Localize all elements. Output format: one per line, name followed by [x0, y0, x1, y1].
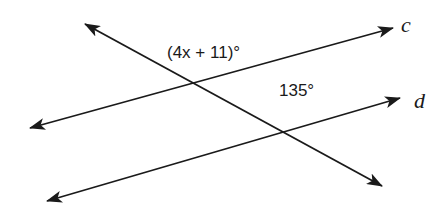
- angle-label-bottom: 135°: [279, 81, 314, 100]
- angle-label-top: (4x + 11)°: [167, 43, 240, 62]
- line-c-label: c: [401, 12, 411, 37]
- parallel-lines-diagram: c d (4x + 11)° 135°: [0, 0, 448, 215]
- line-d-label: d: [414, 88, 426, 113]
- line-d: [47, 98, 400, 201]
